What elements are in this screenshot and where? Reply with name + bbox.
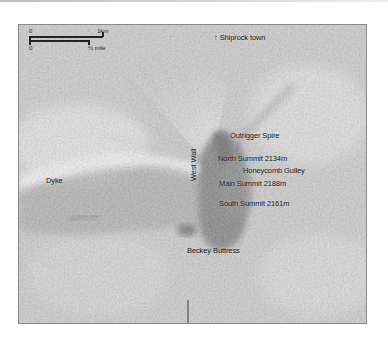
- scale-km-line: [29, 36, 103, 38]
- aerial-map: 0 1km 0 ½ mile ↑ Shiprock town Outrigger…: [18, 24, 367, 324]
- label-main-summit: Main Summit 2188m: [219, 179, 286, 188]
- label-dyke: Dyke: [46, 176, 63, 185]
- label-south-summit: South Summit 2161m: [219, 199, 289, 208]
- label-west-wall: West Wall: [189, 149, 198, 181]
- top-border-line: [0, 0, 388, 2]
- label-honeycomb-gulley: Honeycomb Gulley: [243, 166, 305, 175]
- scale-mile-end: ½ mile: [88, 45, 106, 51]
- scale-km-tick: [102, 32, 104, 37]
- scale-mile-line: [29, 40, 89, 42]
- scale-mile-start: 0: [29, 45, 32, 51]
- label-shiprock-town: ↑ Shiprock town: [214, 33, 265, 42]
- label-outrigger-spire: Outrigger Spire: [230, 131, 279, 140]
- label-north-summit: North Summit 2134m: [218, 154, 287, 163]
- scale-km-start: 0: [29, 28, 32, 34]
- label-beckey-buttress: Beckey Buttress: [187, 246, 240, 255]
- scale-start-tick: [29, 36, 31, 45]
